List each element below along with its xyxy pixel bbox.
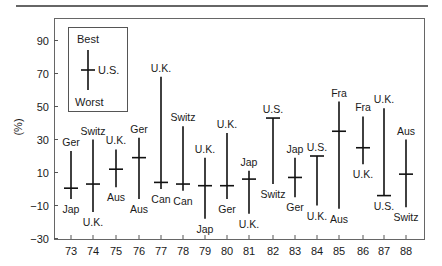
x-tick-label: 76 <box>133 245 145 257</box>
y-axis: 9070503010−10−30 <box>30 35 58 245</box>
range-bar-84: U.S.U.K. <box>307 141 327 222</box>
x-axis: 73747576777879808182838485868788 <box>65 235 412 257</box>
worst-label: U.K. <box>83 216 103 228</box>
worst-label: Jap <box>197 223 214 235</box>
worst-label: Jap <box>63 203 80 215</box>
best-label: U.K. <box>217 118 237 130</box>
x-tick-label: 82 <box>267 245 279 257</box>
best-label: Jap <box>241 156 258 168</box>
x-tick-label: 74 <box>87 245 99 257</box>
y-tick-label: −10 <box>30 200 49 212</box>
worst-label: Ger <box>286 201 304 213</box>
worst-label: Ger <box>218 203 236 215</box>
best-label: Ger <box>130 123 148 135</box>
worst-label: Can <box>151 193 170 205</box>
range-bar-75: U.K.Aus <box>106 134 126 203</box>
best-label: U.K. <box>151 62 171 74</box>
y-axis-label: (%) <box>12 118 24 135</box>
y-tick-label: −30 <box>30 233 49 245</box>
range-bar-76: GerAus <box>130 123 148 215</box>
range-bar-86: FraU.K. <box>353 101 373 180</box>
best-label: U.S. <box>307 141 327 153</box>
y-tick-label: 10 <box>37 167 49 179</box>
range-bar-81: JapU.K. <box>239 156 259 230</box>
x-tick-label: 84 <box>311 245 323 257</box>
legend-worst-label: Worst <box>75 96 104 108</box>
worst-label: Can <box>173 195 192 207</box>
legend: Best U.S. Worst <box>69 28 128 112</box>
x-tick-label: 77 <box>155 245 167 257</box>
best-label: Switz <box>170 111 195 123</box>
range-bar-83: JapGer <box>286 143 304 214</box>
best-label: U.K. <box>195 143 215 155</box>
worst-label: U.K. <box>239 218 259 230</box>
worst-label: Aus <box>130 203 148 215</box>
worst-label: U.S. <box>374 200 394 212</box>
range-bar-87: U.K.U.S. <box>374 93 394 211</box>
worst-label: Aus <box>107 191 125 203</box>
x-tick-label: 88 <box>400 245 412 257</box>
range-bar-82: U.S.Switz <box>260 103 285 200</box>
y-tick-label: 30 <box>37 134 49 146</box>
best-label: Aus <box>397 125 415 137</box>
best-label: U.K. <box>374 93 394 105</box>
x-tick-label: 78 <box>177 245 189 257</box>
range-bar-79: U.K.Jap <box>195 143 215 235</box>
y-tick-label: 90 <box>37 35 49 47</box>
worst-label: Switz <box>393 211 418 223</box>
best-label: Switz <box>80 125 105 137</box>
best-label: U.S. <box>263 103 283 115</box>
best-label: Ger <box>62 136 80 148</box>
best-label: Fra <box>331 87 347 99</box>
legend-us-label: U.S. <box>98 64 119 76</box>
range-bar-77: U.K.Can <box>151 62 171 205</box>
range-bar-85: FraAus <box>330 87 348 225</box>
x-tick-label: 73 <box>65 245 77 257</box>
y-tick-label: 50 <box>37 101 49 113</box>
x-tick-label: 80 <box>221 245 233 257</box>
range-bar-88: AusSwitz <box>393 125 418 224</box>
worst-label: U.K. <box>307 210 327 222</box>
worst-label: Switz <box>260 188 285 200</box>
x-tick-label: 75 <box>110 245 122 257</box>
worst-label: Aus <box>330 213 348 225</box>
y-tick-label: 70 <box>37 68 49 80</box>
best-label: U.K. <box>106 134 126 146</box>
range-bar-73: GerJap <box>62 136 80 215</box>
best-label: Jap <box>287 143 304 155</box>
range-bar-78: SwitzCan <box>170 111 195 206</box>
x-tick-label: 83 <box>289 245 301 257</box>
x-tick-label: 86 <box>357 245 369 257</box>
x-tick-label: 81 <box>243 245 255 257</box>
range-chart: 9070503010−10−30 73747576777879808182838… <box>0 0 442 266</box>
range-bar-74: SwitzU.K. <box>80 125 105 229</box>
best-label: Fra <box>355 101 371 113</box>
x-tick-label: 87 <box>378 245 390 257</box>
legend-best-label: Best <box>77 33 99 45</box>
x-tick-label: 79 <box>199 245 211 257</box>
x-tick-label: 85 <box>333 245 345 257</box>
range-bar-80: U.K.Ger <box>217 118 237 215</box>
worst-label: U.K. <box>353 168 373 180</box>
